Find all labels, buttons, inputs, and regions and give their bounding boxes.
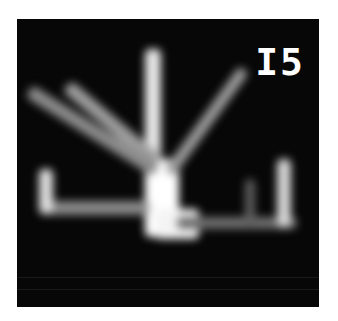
scan-line [17, 289, 319, 290]
tip-left [39, 169, 53, 213]
branch-right [164, 66, 249, 177]
scan-line [17, 277, 319, 278]
tip-middle-right [245, 179, 255, 225]
base-left [39, 201, 149, 215]
frame-label: I5 [255, 43, 305, 81]
image-frame: I5 [17, 19, 319, 307]
tip-right [277, 159, 291, 227]
